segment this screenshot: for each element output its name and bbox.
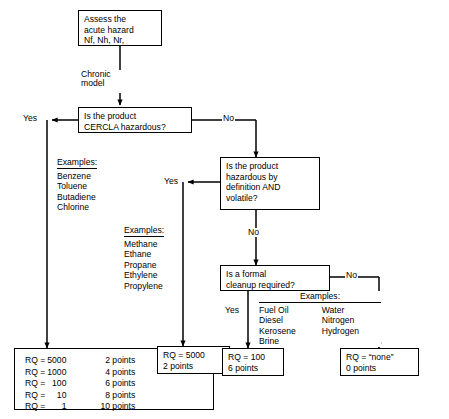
rq-row-label: RQ = bbox=[25, 390, 47, 402]
rq-row-value: 100 bbox=[47, 378, 100, 390]
examples-volatile-item-0: Methane bbox=[124, 239, 164, 249]
node-q3-formal-cleanup: Is a formal cleanup required? bbox=[220, 265, 330, 291]
rq-row-value: 5000 bbox=[47, 355, 100, 367]
rq-row-points: 6 points bbox=[100, 378, 135, 390]
examples-cercla-header: Examples: bbox=[57, 157, 97, 169]
rq-table-row: RQ =108 points bbox=[25, 390, 135, 402]
edge-label-q1-no: No bbox=[222, 114, 235, 123]
examples-cleanup-col1-item-1: Diesel bbox=[259, 315, 296, 325]
examples-cleanup-col1-item-2: Kerosene bbox=[259, 326, 296, 336]
result-rq-none: RQ = “none” 0 points bbox=[340, 348, 419, 376]
examples-cercla-item-1: Toluene bbox=[57, 181, 97, 191]
examples-cleanup: Examples: Fuel Oil Diesel Kerosene Brine… bbox=[259, 291, 381, 347]
rq-row-points: 2 points bbox=[100, 355, 135, 367]
examples-cercla-item-3: Chlorine bbox=[57, 202, 97, 212]
rq-table-row: RQ =110 points bbox=[25, 401, 135, 413]
flowchart-canvas: Assess the acute hazard Nf, Nh, Nr, Chro… bbox=[0, 0, 449, 419]
rq-table-row: RQ =10004 points bbox=[25, 367, 135, 379]
examples-cleanup-col1-item-3: Brine bbox=[259, 336, 296, 346]
examples-cleanup-col2-item-1: Nitrogen bbox=[322, 315, 359, 325]
examples-cleanup-header: Examples: bbox=[259, 291, 381, 303]
examples-cercla: Examples: Benzene Toluene Butadiene Chlo… bbox=[57, 157, 97, 213]
examples-cleanup-col2-item-2: Hydrogen bbox=[322, 326, 359, 336]
rq-table-row: RQ =50002 points bbox=[25, 355, 135, 367]
edge-label-q3-yes: Yes bbox=[224, 306, 240, 315]
examples-volatile-header: Examples: bbox=[124, 225, 164, 237]
examples-cercla-item-2: Butadiene bbox=[57, 192, 97, 202]
rq-row-value: 10 bbox=[47, 390, 100, 402]
edge-label-q2-no: No bbox=[247, 228, 260, 237]
rq-row-value: 1000 bbox=[47, 367, 100, 379]
result-rq-100: RQ = 100 6 points bbox=[222, 348, 284, 376]
rq-table: RQ =50002 pointsRQ =10004 pointsRQ =1006… bbox=[25, 355, 135, 413]
edge-label-chronic-model: Chronicmodel bbox=[80, 70, 112, 88]
examples-volatile-item-3: Ethylene bbox=[124, 270, 164, 280]
rq-row-label: RQ = bbox=[25, 355, 47, 367]
examples-cleanup-col-yes: Fuel Oil Diesel Kerosene Brine bbox=[259, 305, 296, 347]
edge-label-q3-no: No bbox=[345, 271, 358, 280]
rq-row-value: 1 bbox=[47, 401, 100, 413]
examples-volatile-item-2: Propane bbox=[124, 260, 164, 270]
rq-table-row: RQ =1006 points bbox=[25, 378, 135, 390]
node-q1-cercla-hazardous: Is the product CERCLA hazardous? bbox=[78, 107, 192, 133]
rq-row-points: 10 points bbox=[100, 401, 135, 413]
rq-row-points: 4 points bbox=[100, 367, 135, 379]
rq-row-label: RQ = bbox=[25, 378, 47, 390]
examples-volatile-item-4: Propylene bbox=[124, 281, 164, 291]
examples-cleanup-col-no: Water Nitrogen Hydrogen bbox=[322, 305, 359, 347]
edge-label-q2-yes: Yes bbox=[163, 177, 179, 186]
examples-volatile-item-1: Ethane bbox=[124, 249, 164, 259]
examples-cleanup-col1-item-0: Fuel Oil bbox=[259, 305, 296, 315]
result-rq-5000: RQ = 5000 2 points bbox=[157, 346, 230, 374]
examples-volatile: Examples: Methane Ethane Propane Ethylen… bbox=[124, 225, 164, 291]
node-assess-acute-hazard: Assess the acute hazard Nf, Nh, Nr, bbox=[78, 10, 162, 46]
examples-cercla-item-0: Benzene bbox=[57, 171, 97, 181]
rq-row-label: RQ = bbox=[25, 401, 47, 413]
examples-cleanup-col2-item-0: Water bbox=[322, 305, 359, 315]
node-q2-hazardous-volatile: Is the product hazardous by definition A… bbox=[220, 157, 320, 210]
edge-label-q1-yes: Yes bbox=[22, 114, 38, 123]
rq-row-label: RQ = bbox=[25, 367, 47, 379]
rq-row-points: 8 points bbox=[100, 390, 135, 402]
